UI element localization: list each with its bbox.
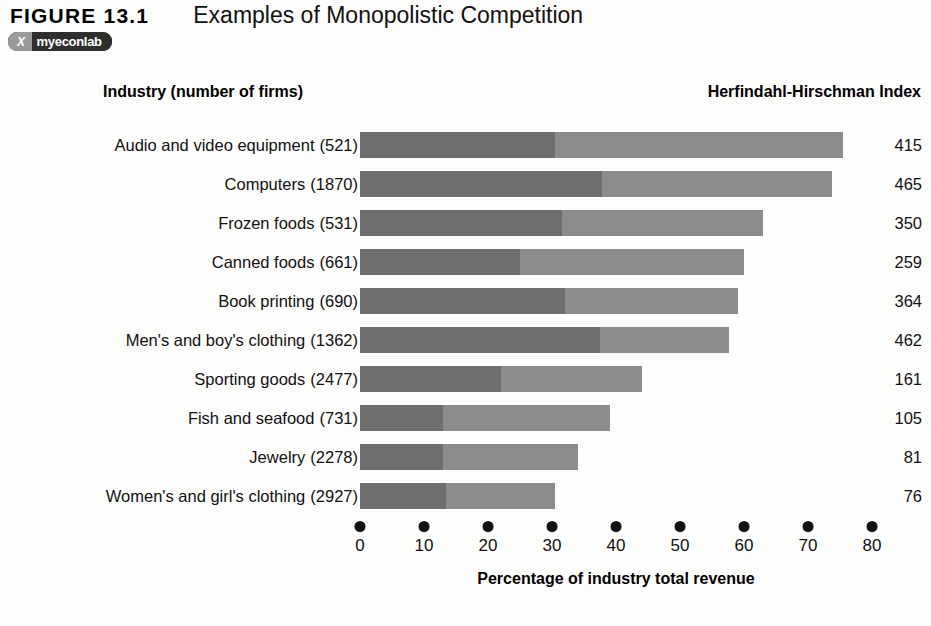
page-title: Examples of Monopolistic Competition bbox=[193, 2, 583, 29]
chart-row: Book printing(690)364 bbox=[0, 281, 931, 320]
bar-track bbox=[360, 288, 872, 314]
hhi-value: 415 bbox=[878, 135, 922, 154]
bar-segment-remainder bbox=[565, 288, 738, 314]
myeconlab-badge[interactable]: X myeconlab bbox=[8, 32, 112, 51]
row-category-label: Canned foods(661) bbox=[212, 252, 358, 271]
bar-track bbox=[360, 210, 872, 236]
bar-segment-remainder bbox=[555, 132, 843, 158]
x-axis-tick: 50 bbox=[671, 521, 690, 556]
tick-dot-marker bbox=[418, 521, 429, 532]
bar-segment-remainder bbox=[443, 405, 609, 431]
bar-segment-concentration bbox=[360, 210, 562, 236]
bar-track bbox=[360, 171, 872, 197]
bar-segment-remainder bbox=[602, 171, 832, 197]
myeconlab-label: myeconlab bbox=[32, 32, 112, 51]
bar-track bbox=[360, 444, 872, 470]
x-axis-tick: 20 bbox=[479, 521, 498, 556]
tick-dot-marker bbox=[610, 521, 621, 532]
category-firm-count: (531) bbox=[319, 213, 358, 231]
category-firm-count: (731) bbox=[319, 408, 358, 426]
row-category-label: Women's and girl's clothing(2927) bbox=[106, 486, 358, 505]
figure-page: FIGURE 13.1 Examples of Monopolistic Com… bbox=[0, 0, 931, 626]
bar-track bbox=[360, 483, 872, 509]
bar-track bbox=[360, 249, 872, 275]
hhi-value: 76 bbox=[878, 486, 922, 505]
tick-label: 60 bbox=[735, 536, 754, 556]
category-name: Canned foods bbox=[212, 252, 315, 270]
bar-segment-concentration bbox=[360, 366, 501, 392]
bar-segment-concentration bbox=[360, 444, 443, 470]
hhi-value: 105 bbox=[878, 408, 922, 427]
x-axis-tick: 80 bbox=[863, 521, 882, 556]
row-category-label: Sporting goods(2477) bbox=[194, 369, 358, 388]
bar-segment-concentration bbox=[360, 132, 555, 158]
category-name: Audio and video equipment bbox=[114, 135, 314, 153]
bar-segment-remainder bbox=[562, 210, 764, 236]
bar-segment-remainder bbox=[443, 444, 577, 470]
tick-label: 0 bbox=[355, 536, 364, 556]
row-category-label: Men's and boy's clothing(1362) bbox=[126, 330, 358, 349]
tick-label: 50 bbox=[671, 536, 690, 556]
column-header-hhi: Herfindahl-Hirschman Index bbox=[708, 83, 921, 101]
figure-number: FIGURE 13.1 bbox=[10, 4, 149, 28]
category-name: Men's and boy's clothing bbox=[126, 330, 306, 348]
hhi-value: 462 bbox=[878, 330, 922, 349]
chart-row: Computers(1870)465 bbox=[0, 164, 931, 203]
bar-track bbox=[360, 366, 872, 392]
row-category-label: Jewelry(2278) bbox=[249, 447, 358, 466]
hhi-value: 350 bbox=[878, 213, 922, 232]
chart-plot-area: Audio and video equipment(521)415Compute… bbox=[0, 125, 931, 520]
chart-row: Men's and boy's clothing(1362)462 bbox=[0, 320, 931, 359]
chart-row: Canned foods(661)259 bbox=[0, 242, 931, 281]
bar-segment-remainder bbox=[501, 366, 642, 392]
category-firm-count: (2477) bbox=[310, 369, 358, 387]
bar-segment-concentration bbox=[360, 483, 446, 509]
row-category-label: Fish and seafood(731) bbox=[188, 408, 358, 427]
x-axis: 01020304050607080 bbox=[360, 521, 872, 561]
tick-dot-marker bbox=[546, 521, 557, 532]
tick-dot-marker bbox=[355, 521, 366, 532]
row-category-label: Audio and video equipment(521) bbox=[114, 135, 358, 154]
hhi-value: 465 bbox=[878, 174, 922, 193]
category-firm-count: (521) bbox=[319, 135, 358, 153]
category-firm-count: (690) bbox=[319, 291, 358, 309]
row-category-label: Book printing(690) bbox=[218, 291, 358, 310]
category-firm-count: (2927) bbox=[310, 486, 358, 504]
chart-row: Women's and girl's clothing(2927)76 bbox=[0, 476, 931, 515]
x-axis-title: Percentage of industry total revenue bbox=[360, 570, 872, 588]
x-axis-tick: 60 bbox=[735, 521, 754, 556]
category-firm-count: (2278) bbox=[310, 447, 358, 465]
row-category-label: Computers(1870) bbox=[225, 174, 358, 193]
x-axis-tick: 0 bbox=[355, 521, 366, 556]
tick-label: 10 bbox=[415, 536, 434, 556]
bar-segment-remainder bbox=[446, 483, 555, 509]
x-axis-tick: 10 bbox=[415, 521, 434, 556]
chart-row: Fish and seafood(731)105 bbox=[0, 398, 931, 437]
bar-track bbox=[360, 132, 872, 158]
tick-dot-marker bbox=[866, 521, 877, 532]
bar-segment-concentration bbox=[360, 171, 602, 197]
category-name: Jewelry bbox=[249, 447, 305, 465]
column-header-industry: Industry (number of firms) bbox=[103, 83, 303, 101]
category-name: Women's and girl's clothing bbox=[106, 486, 306, 504]
row-category-label: Frozen foods(531) bbox=[218, 213, 358, 232]
bar-segment-concentration bbox=[360, 249, 520, 275]
tick-label: 40 bbox=[607, 536, 626, 556]
bar-segment-remainder bbox=[600, 327, 729, 353]
myeconlab-logo-icon: X bbox=[8, 32, 32, 51]
chart-row: Sporting goods(2477)161 bbox=[0, 359, 931, 398]
hhi-value: 364 bbox=[878, 291, 922, 310]
tick-label: 70 bbox=[799, 536, 818, 556]
tick-dot-marker bbox=[738, 521, 749, 532]
x-axis-tick: 30 bbox=[543, 521, 562, 556]
bar-segment-concentration bbox=[360, 327, 600, 353]
category-name: Computers bbox=[225, 174, 306, 192]
x-axis-tick: 40 bbox=[607, 521, 626, 556]
tick-dot-marker bbox=[802, 521, 813, 532]
bar-track bbox=[360, 327, 872, 353]
chart-row: Frozen foods(531)350 bbox=[0, 203, 931, 242]
tick-label: 20 bbox=[479, 536, 498, 556]
hhi-value: 259 bbox=[878, 252, 922, 271]
chart-row: Audio and video equipment(521)415 bbox=[0, 125, 931, 164]
category-firm-count: (1870) bbox=[310, 174, 358, 192]
